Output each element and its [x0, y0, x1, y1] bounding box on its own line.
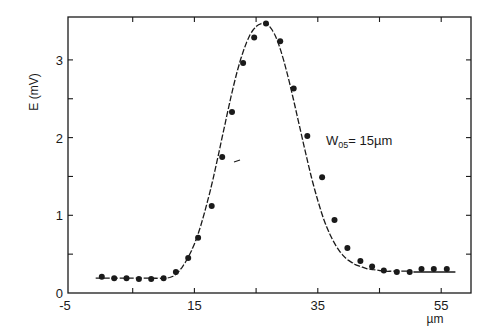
- fit-tail-gaps: [96, 23, 411, 278]
- data-point: [419, 266, 425, 272]
- data-point: [277, 38, 283, 44]
- annotation-sub: 05: [338, 140, 348, 150]
- data-point: [304, 133, 310, 139]
- data-point: [291, 86, 297, 92]
- annotation-w05: W05= 15µm: [326, 133, 392, 150]
- y-axis-title: E (mV): [27, 73, 41, 110]
- y-tick-label: 0: [56, 286, 63, 301]
- data-point: [344, 245, 350, 251]
- y-tick-label: 3: [56, 53, 63, 68]
- annotation-rest: = 15µm: [348, 133, 392, 148]
- data-point: [219, 154, 225, 160]
- chart: -51535550123 E (mV) µm W05= 15µm: [0, 0, 495, 333]
- plot-frame: [68, 17, 471, 293]
- data-point: [136, 276, 142, 282]
- data-point: [148, 276, 154, 282]
- data-point: [381, 268, 387, 274]
- data-point: [431, 266, 437, 272]
- data-point: [332, 217, 338, 223]
- fit-curve: [96, 23, 456, 278]
- data-point: [99, 274, 105, 280]
- data-point: [240, 60, 246, 66]
- data-point: [357, 258, 363, 264]
- plot-border: [68, 17, 471, 293]
- data-point: [161, 275, 167, 281]
- data-point: [195, 235, 201, 241]
- stray-mark: [234, 160, 240, 162]
- data-point: [407, 269, 413, 275]
- x-tick-label: 15: [187, 298, 201, 313]
- data-point: [394, 269, 400, 275]
- y-tick-label: 2: [56, 131, 63, 146]
- tick-labels: -51535550123: [56, 53, 449, 313]
- data-point: [185, 255, 191, 261]
- data-point: [251, 34, 257, 40]
- x-axis-title: µm: [427, 312, 444, 326]
- data-point: [319, 174, 325, 180]
- fit-line: [96, 23, 411, 278]
- data-point: [209, 203, 215, 209]
- data-point: [263, 20, 269, 26]
- data-point: [229, 109, 235, 115]
- data-point: [173, 269, 179, 275]
- data-point: [369, 264, 375, 270]
- y-tick-label: 1: [56, 208, 63, 223]
- x-tick-label: 35: [311, 298, 325, 313]
- data-point: [444, 266, 450, 272]
- data-point: [111, 275, 117, 281]
- data-point: [124, 275, 130, 281]
- annotation-main: W: [326, 133, 339, 148]
- data-points: [99, 20, 450, 282]
- axis-ticks: [68, 17, 471, 293]
- x-tick-label: 55: [434, 298, 448, 313]
